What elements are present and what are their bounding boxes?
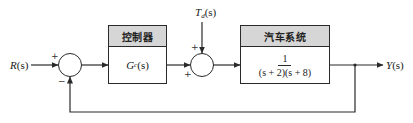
- controller-title: 控制器: [109, 26, 166, 47]
- input-label: R(s): [10, 59, 28, 71]
- disturbance-label: Td(s): [195, 6, 216, 22]
- controller-transfer-function: Gc(s): [109, 47, 166, 83]
- summing-junction-2: [191, 54, 214, 77]
- plant-denominator: (s + 2)(s + 8): [259, 66, 311, 78]
- sum2-plus-sign-top: +: [191, 43, 199, 52]
- block-diagram: R(s) Y(s) Td(s) + − + + 控制器 Gc(s) 汽车系统 1…: [0, 0, 413, 123]
- sum1-plus-sign: +: [51, 52, 59, 61]
- plant-transfer-function: 1 (s + 2)(s + 8): [241, 47, 329, 83]
- output-label: Y(s): [386, 59, 404, 71]
- sum1-minus-sign: −: [58, 77, 66, 86]
- controller-block: 控制器 Gc(s): [108, 25, 167, 84]
- plant-block: 汽车系统 1 (s + 2)(s + 8): [240, 25, 330, 84]
- summing-junction-1: [59, 54, 82, 77]
- sum2-plus-sign-left: +: [184, 70, 192, 79]
- plant-numerator: 1: [278, 53, 291, 66]
- plant-title: 汽车系统: [241, 26, 329, 47]
- plant-fraction: 1 (s + 2)(s + 8): [259, 53, 311, 78]
